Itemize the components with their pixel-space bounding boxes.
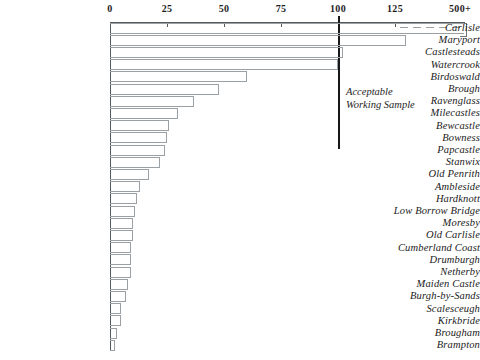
bar-row: Brampton [0,339,480,351]
category-label: Ravenglass [375,95,480,107]
bar-rows: CarlisleMaryportCastlesteadsWatercrookBi… [0,0,480,360]
bar-row: Netherby [0,266,480,278]
bar [110,291,126,302]
bar [110,59,338,70]
category-label: Brough [375,83,480,95]
category-label: Papcastle [375,144,480,156]
category-label: Castlesteads [375,46,480,58]
bar [110,47,343,58]
bar-row: Brough [0,83,480,95]
bar [110,279,128,290]
bar-row: Ambleside [0,181,480,193]
bar [110,120,169,131]
category-label: Scalesceugh [375,303,480,315]
category-label: Old Penrith [375,168,480,180]
bar-row: Scalesceugh [0,303,480,315]
bar-row: Cumberland Coast [0,242,480,254]
bar-row: Papcastle [0,144,480,156]
bar [110,132,167,143]
category-label: Netherby [375,266,480,278]
category-label: Milecastles [375,107,480,119]
bar [110,108,178,119]
bar [110,303,121,314]
category-label: Birdoswald [375,71,480,83]
bar-row: Watercrook [0,59,480,71]
category-label: Bowness [375,132,480,144]
bar [110,340,115,351]
category-label: Brougham [375,327,480,339]
bar [110,181,140,192]
bar-row: Old Penrith [0,168,480,180]
bar [110,71,247,82]
bar-row: Moresby [0,217,480,229]
category-label: Drumburgh [375,254,480,266]
category-label: Burgh-by-Sands [375,290,480,302]
category-label: Cumberland Coast [375,242,480,254]
bar-row: Ravenglass [0,95,480,107]
bar [110,193,137,204]
category-label: Stanwix [375,156,480,168]
bar-row: Milecastles [0,107,480,119]
bar [110,328,117,339]
bar-row: Castlesteads [0,46,480,58]
bar [110,96,194,107]
bar-row: Hardknott [0,193,480,205]
bar-row: Kirkbride [0,315,480,327]
category-label: Kirkbride [375,315,480,327]
bar [110,267,131,278]
category-label: Watercrook [375,59,480,71]
bar-row: Maryport [0,34,480,46]
bar-row: Bowness [0,132,480,144]
category-label: Old Carlisle [375,229,480,241]
bar [110,254,131,265]
bar [110,230,133,241]
bar-row: Brougham [0,327,480,339]
category-label: Hardknott [375,193,480,205]
bar [110,157,160,168]
category-label: Bewcastle [375,120,480,132]
bar-row: Burgh-by-Sands [0,290,480,302]
bar-row: Drumburgh [0,254,480,266]
category-label: Low Borrow Bridge [375,205,480,217]
bar [110,242,131,253]
category-label: Moresby [375,217,480,229]
bar [110,84,219,95]
bar [110,315,121,326]
bar-row: Bewcastle [0,120,480,132]
bar-row: Maiden Castle [0,278,480,290]
category-label: Ambleside [375,181,480,193]
bar-chart: 0255075100125500+ Acceptable Working Sam… [0,0,480,360]
bar-row: Low Borrow Bridge [0,205,480,217]
category-label: Maiden Castle [375,278,480,290]
bar [110,35,406,46]
bar-row: Stanwix [0,156,480,168]
bar-row: Carlisle [0,22,480,34]
bar [110,169,149,180]
bar [110,145,165,156]
bar [110,206,135,217]
bar [110,218,133,229]
bar-row: Birdoswald [0,71,480,83]
bar [110,23,464,34]
bar-row: Old Carlisle [0,229,480,241]
category-label: Brampton [375,339,480,351]
